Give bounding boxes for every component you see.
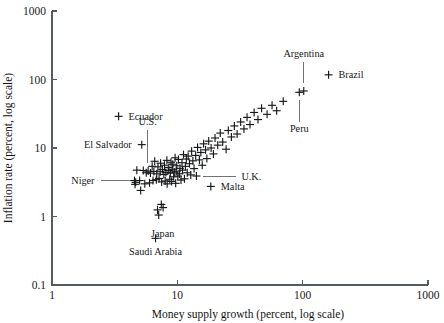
data-point bbox=[258, 104, 266, 112]
data-point bbox=[132, 178, 140, 186]
data-point bbox=[263, 110, 271, 118]
x-tick-label-2: 100 bbox=[294, 289, 312, 301]
data-point bbox=[254, 116, 262, 124]
data-point bbox=[273, 107, 281, 115]
point-label-peru: Peru bbox=[290, 123, 309, 134]
data-point bbox=[240, 125, 248, 133]
x-axis-title: Money supply growth (percent, log scale) bbox=[152, 308, 344, 321]
data-point bbox=[325, 71, 333, 79]
data-point bbox=[237, 118, 245, 126]
data-point bbox=[115, 112, 123, 120]
point-label-japan: Japan bbox=[151, 228, 174, 239]
x-tick-label-1: 10 bbox=[172, 289, 184, 301]
data-point bbox=[203, 155, 211, 163]
tick-labels-group: 10001001010.11101001000 bbox=[23, 5, 440, 301]
data-point bbox=[131, 180, 139, 188]
data-point bbox=[300, 87, 308, 95]
data-point bbox=[155, 211, 163, 219]
data-point bbox=[138, 141, 146, 149]
point-label-brazil: Brazil bbox=[339, 69, 364, 80]
point-label-saudi-arabia: Saudi Arabia bbox=[129, 246, 182, 257]
data-point bbox=[216, 129, 224, 137]
data-point bbox=[137, 186, 145, 194]
x-tick-label-0: 1 bbox=[49, 289, 55, 301]
y-tick-label-0: 1000 bbox=[23, 5, 46, 17]
y-tick-label-3: 1 bbox=[40, 211, 46, 223]
y-tick-label-2: 10 bbox=[35, 142, 47, 154]
data-point bbox=[230, 122, 238, 130]
data-point bbox=[192, 172, 200, 180]
chart-plot-area: 10001001010.11101001000 EcuadorEl Salvad… bbox=[0, 0, 444, 323]
data-point bbox=[268, 101, 276, 109]
data-point bbox=[295, 88, 303, 96]
point-label-u-k-: U.K. bbox=[241, 171, 261, 182]
point-label-argentina: Argentina bbox=[283, 48, 324, 59]
point-label-malta: Malta bbox=[221, 181, 245, 192]
data-point bbox=[222, 145, 230, 153]
data-point bbox=[207, 182, 215, 190]
inflation-vs-money-supply-scatter-chart: 10001001010.11101001000 EcuadorEl Salvad… bbox=[0, 0, 444, 323]
data-point bbox=[243, 113, 251, 121]
data-point bbox=[279, 97, 287, 105]
point-label-niger: Niger bbox=[71, 175, 95, 186]
y-axis-title: Inflation rate (percent, log scale) bbox=[2, 73, 15, 224]
point-label-u-s-: U.S. bbox=[139, 116, 157, 127]
y-tick-label-1: 100 bbox=[29, 74, 47, 86]
y-tick-label-4: 0.1 bbox=[32, 279, 47, 291]
data-point-labels-group: EcuadorEl SalvadorU.S.NigerJapanSaudi Ar… bbox=[71, 48, 363, 257]
point-label-el-salvador: El Salvador bbox=[84, 139, 132, 150]
x-tick-label-3: 1000 bbox=[417, 289, 440, 301]
data-point bbox=[188, 147, 196, 155]
data-point bbox=[250, 108, 258, 116]
data-point bbox=[246, 121, 254, 129]
